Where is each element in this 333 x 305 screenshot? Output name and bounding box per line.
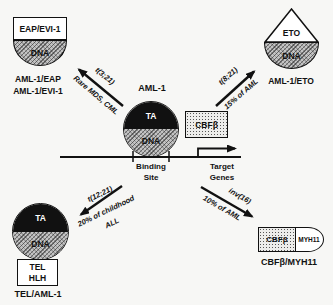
t8-21-translocation-label: t(8;21) <box>217 65 240 87</box>
eto-label: ETO <box>264 28 319 38</box>
fusion-name-cbfb-myh11: CBFβ/MYH11 <box>249 256 329 268</box>
fusion-name-tel-aml1: TEL/AML-1 <box>0 288 76 300</box>
top-left-dna-label: DNA <box>31 48 49 58</box>
inv16-translocation-label: inv(16) <box>227 186 252 206</box>
top-left-dna-half-circle: DNA <box>13 40 67 66</box>
binding-site-line2: Site <box>121 173 181 184</box>
tel-aml1-ta-label: TA <box>13 213 68 223</box>
top-left-fusion-names: AML-1/EAP AML-1/EVI-1 <box>0 73 78 97</box>
aml1-dna-label: DNA <box>124 136 178 146</box>
tel-hlh-domain-box: TEL HLH <box>17 259 58 286</box>
eap-evi1-label: EAP/EVI-1 <box>19 24 60 34</box>
tel-aml1-dna-label: DNA <box>13 239 68 249</box>
aml1-protein-circle: TA DNA <box>123 101 179 157</box>
top-right-dna-half-circle: DNA <box>264 42 319 69</box>
cbfb-subunit-box: CBFβ <box>185 111 228 138</box>
t12-21-incidence-line2: ALL <box>103 216 120 230</box>
fusion-name-aml1-evi1: AML-1/EVI-1 <box>0 85 78 97</box>
target-genes-line1: Target <box>192 162 252 173</box>
hlh-label: HLH <box>29 273 46 284</box>
transcription-start-arrow <box>198 149 235 158</box>
t12-21-translocation-label: t(12;21) <box>86 184 114 204</box>
top-right-dna-label: DNA <box>282 51 300 61</box>
cbfb-fusion-label: CBFβ <box>266 235 287 244</box>
myh11-domain-dshape: MYH11 <box>295 227 324 252</box>
tel-aml1-protein-circle: TA DNA <box>12 203 69 260</box>
binding-site-label: Binding Site <box>121 162 181 183</box>
aml1-ta-label: TA <box>124 111 178 121</box>
binding-site-line1: Binding <box>121 162 181 173</box>
fusion-name-aml1-eto: AML-1/ETO <box>251 75 331 87</box>
aml1-translocation-diagram: EAP/EVI-1 DNA AML-1/EAP AML-1/EVI-1 t(3;… <box>0 0 333 305</box>
cbfb-fusion-box: CBFβ <box>258 227 296 252</box>
tel-label: TEL <box>29 262 45 273</box>
eap-evi1-domain-box: EAP/EVI-1 <box>13 17 67 40</box>
fusion-name-aml1-eap: AML-1/EAP <box>0 73 78 85</box>
cbfb-label: CBFβ <box>195 120 218 130</box>
myh11-label: MYH11 <box>298 236 319 243</box>
target-genes-line2: Genes <box>192 173 252 184</box>
target-genes-label: Target Genes <box>192 162 252 183</box>
eto-domain-triangle: ETO <box>264 8 319 43</box>
aml1-gene-label: AML-1 <box>112 82 192 94</box>
